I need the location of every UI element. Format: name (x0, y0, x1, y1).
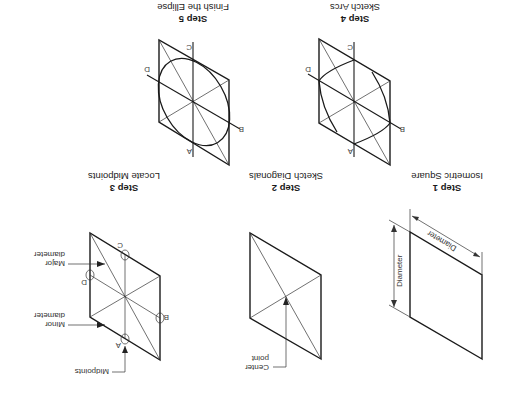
point-label-d: D (305, 65, 311, 74)
point-label-c: C (347, 43, 353, 52)
isometric-ellipse-diagram: Diameter Diameter Step 1 Isometric Squar… (0, 0, 505, 397)
step-2-short-diagonal (250, 275, 321, 318)
step-1-title: Isometric Square (411, 171, 483, 182)
arrowhead-icon (391, 225, 397, 232)
point-label-b: B (400, 125, 405, 134)
step-5-number: Step 5 (178, 14, 207, 25)
step-2-center-label-2: point (251, 354, 269, 363)
step-4-title: Sketch Arcs (330, 2, 380, 13)
step-1-side-dimension-label: Diameter (395, 254, 404, 287)
step-1-number: Step 1 (432, 183, 461, 194)
arrowhead-icon (412, 216, 419, 221)
step-5-short-diagonal (159, 80, 229, 122)
step-4-panel: A B C D Step 4 Sketch Arcs (305, 2, 405, 165)
step-5-title: Finish the Ellipse (157, 2, 229, 13)
point-label-c: C (186, 43, 192, 52)
step-3-number: Step 3 (110, 183, 139, 194)
step-3-title: Locate Midpoints (88, 171, 160, 182)
arrowhead-icon (391, 300, 397, 307)
step-3-midpoints-label: Midpoints (75, 367, 109, 376)
step-1-panel: Diameter Diameter Step 1 Isometric Squar… (389, 171, 483, 359)
step-2-center-label-1: Center (245, 363, 269, 372)
rotated-figure: Diameter Diameter Step 1 Isometric Squar… (34, 2, 483, 376)
point-label-a: A (115, 341, 121, 350)
step-2-title: Sketch Diagonals (249, 171, 323, 182)
step-3-major-label-2: diameter (34, 250, 65, 259)
step-3-panel: A B C D Midpoints Minor diameter Major d… (34, 171, 169, 376)
point-label-d: D (144, 65, 150, 74)
point-label-b: B (164, 313, 169, 322)
point-label-d: D (81, 278, 87, 287)
step-2-panel: Center point Step 2 Sketch Diagonals (245, 171, 323, 372)
point-label-a: A (347, 147, 353, 156)
point-label-c: C (117, 241, 123, 250)
step-2-long-diagonal (250, 233, 321, 359)
point-label-a: A (186, 147, 192, 156)
arrowhead-icon (97, 322, 105, 328)
arrowhead-icon (97, 261, 105, 267)
point-label-b: B (239, 125, 244, 134)
step-3-minor-label-1: Minor (45, 320, 65, 329)
arrowhead-icon (473, 252, 480, 257)
step-1-dimension-line-top (412, 216, 480, 257)
step-3-minor-label-2: diameter (34, 311, 65, 320)
arrowhead-icon (122, 346, 128, 353)
step-3-major-label-1: Major (45, 259, 65, 268)
step-4-number: Step 4 (340, 14, 369, 25)
step-2-number: Step 2 (272, 183, 301, 194)
step-1-isometric-square (410, 232, 482, 359)
step-5-panel: A B C D Step 5 Finish the Ellipse (144, 2, 245, 165)
step-1-extension-line (389, 305, 410, 317)
